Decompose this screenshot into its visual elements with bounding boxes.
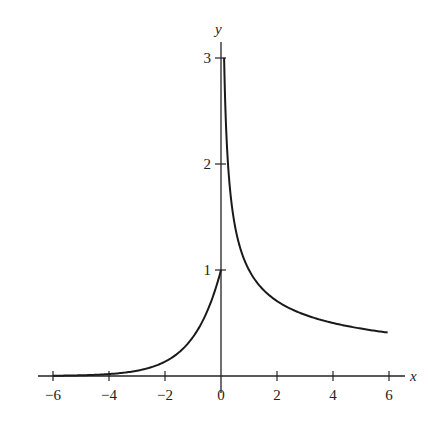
y-tick-label: 1 <box>204 262 212 278</box>
y-tick-label: 3 <box>204 50 212 66</box>
x-tick-label: 6 <box>385 387 393 403</box>
x-tick-label: 0 <box>217 387 225 403</box>
y-axis-label: y <box>213 21 222 37</box>
x-tick-label: 4 <box>329 387 337 403</box>
axes: x y <box>38 21 417 393</box>
chart: x y −6−4−20246 123 <box>0 0 448 435</box>
x-axis-label: x <box>409 368 417 384</box>
x-tick-label: 2 <box>273 387 281 403</box>
plot-series <box>53 58 388 376</box>
curve-right-branch <box>224 58 388 333</box>
y-tick-label: 2 <box>204 156 212 172</box>
curve-left-branch <box>53 270 221 376</box>
y-ticks: 123 <box>204 50 227 278</box>
x-tick-label: −2 <box>157 387 173 403</box>
x-tick-label: −4 <box>101 387 117 403</box>
x-tick-label: −6 <box>45 387 61 403</box>
